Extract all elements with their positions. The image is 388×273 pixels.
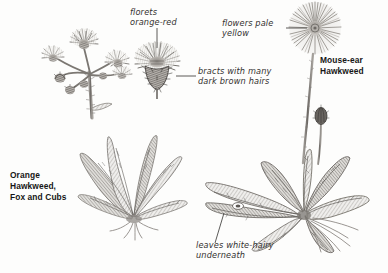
flower-bud <box>80 80 89 88</box>
flower-head <box>105 50 129 67</box>
label-mouse-ear-hawkweed: Mouse-ear Hawkweed <box>320 55 364 77</box>
mouse-ear-flower-head <box>289 2 341 54</box>
illustration-plate: florets orange-red bracts with many dark… <box>0 0 388 273</box>
flower-head <box>113 66 132 79</box>
flower-head <box>42 46 64 62</box>
flower-bud <box>313 105 329 125</box>
flower-head-detail <box>135 42 180 99</box>
leader-leaves-hairy <box>215 213 224 243</box>
label-leaves-hairy: leaves white-hairy underneath <box>196 241 274 260</box>
orange-hawkweed-flower-cluster <box>42 29 132 119</box>
label-orange-hawkweed: Orange Hawkweed, Fox and Cubs <box>10 170 67 203</box>
mouse-ear-rosette <box>206 149 369 252</box>
flower-head <box>70 29 98 50</box>
botanical-artwork <box>0 0 388 273</box>
label-florets: florets orange-red <box>130 8 177 27</box>
flower-bud <box>65 84 76 94</box>
flower-bud <box>54 72 66 83</box>
flower-bud <box>99 73 107 80</box>
label-bracts: bracts with many dark brown hairs <box>198 67 272 86</box>
orange-hawkweed-rosette <box>78 136 187 241</box>
label-flowers-pale: flowers pale yellow <box>222 19 273 38</box>
leader-lines <box>157 28 307 243</box>
